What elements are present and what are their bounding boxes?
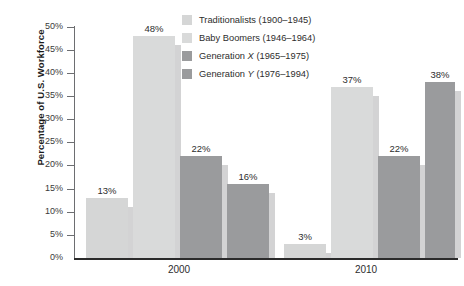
bar-baby-boomers-2000 xyxy=(133,36,175,258)
x-axis-line xyxy=(74,258,458,260)
bar-fill xyxy=(378,156,420,258)
y-axis-tick xyxy=(67,165,74,166)
legend-swatch-icon xyxy=(182,69,192,79)
y-axis-tick-label: 5% xyxy=(30,230,63,239)
y-axis-tick xyxy=(67,142,74,143)
bar-baby-boomers-2010 xyxy=(331,87,373,258)
bar-generation-y-2010 xyxy=(425,82,455,258)
y-axis-tick-label: 40% xyxy=(30,68,63,77)
y-axis-tick xyxy=(67,50,74,51)
legend-label: Baby Boomers (1946–1964) xyxy=(199,33,315,43)
legend-swatch-icon xyxy=(182,15,192,25)
bar-value-label: 22% xyxy=(174,143,228,154)
bar-fill xyxy=(425,82,455,258)
bar-value-label: 38% xyxy=(419,69,461,80)
bar-value-label: 13% xyxy=(80,185,134,196)
bar-fill xyxy=(331,87,373,258)
bar-value-label: 48% xyxy=(127,23,181,34)
legend-item-baby-boomers[interactable]: Baby Boomers (1946–1964) xyxy=(182,30,315,46)
y-axis-tick-label: 30% xyxy=(30,114,63,123)
bar-generation-x-2010 xyxy=(378,156,420,258)
x-axis-group-label-2010: 2010 xyxy=(320,264,412,275)
y-axis-tick xyxy=(67,189,74,190)
y-axis-tick-label: 20% xyxy=(30,160,63,169)
chart-figure: Percentage of U.S. Workforce 50% 45% 40%… xyxy=(0,0,464,286)
bar-generation-x-2000 xyxy=(180,156,222,258)
y-axis-tick xyxy=(67,212,74,213)
y-axis-tick xyxy=(67,27,74,28)
y-axis-tick-label: 0% xyxy=(30,253,63,262)
y-axis-line xyxy=(74,26,75,259)
legend-item-generation-y[interactable]: Generation Y (1976–1994) xyxy=(182,66,315,82)
bar-value-label: 37% xyxy=(325,74,379,85)
bar-value-label: 22% xyxy=(372,143,426,154)
bar-shadow xyxy=(455,91,461,258)
legend-swatch-icon xyxy=(182,51,192,61)
y-axis-tick-label: 25% xyxy=(30,137,63,146)
bar-generation-y-2000 xyxy=(227,184,269,258)
bar-fill xyxy=(86,198,128,258)
y-axis-tick-label: 45% xyxy=(30,45,63,54)
y-axis-tick xyxy=(67,235,74,236)
legend-item-traditionalists[interactable]: Traditionalists (1900–1945) xyxy=(182,12,315,28)
y-axis-tick xyxy=(67,73,74,74)
y-axis-tick-label: 50% xyxy=(30,22,63,31)
y-axis-tick xyxy=(67,96,74,97)
legend-label: Generation Y (1976–1994) xyxy=(199,69,309,79)
y-axis-tick xyxy=(67,119,74,120)
y-axis-tick-label: 15% xyxy=(30,184,63,193)
bar-shadow xyxy=(269,193,275,258)
bar-value-label: 3% xyxy=(278,231,332,242)
bar-fill xyxy=(227,184,269,258)
bar-fill xyxy=(180,156,222,258)
legend-label: Generation X (1965–1975) xyxy=(199,51,309,61)
bar-traditionalists-2010 xyxy=(284,244,326,258)
legend-item-generation-x[interactable]: Generation X (1965–1975) xyxy=(182,48,315,64)
x-axis-group-label-2000: 2000 xyxy=(133,264,225,275)
y-axis-tick-label: 35% xyxy=(30,91,63,100)
bar-fill xyxy=(133,36,175,258)
legend: Traditionalists (1900–1945) Baby Boomers… xyxy=(182,12,315,84)
legend-swatch-icon xyxy=(182,33,192,43)
bar-traditionalists-2000 xyxy=(86,198,128,258)
bar-value-label: 16% xyxy=(221,171,275,182)
bar-fill xyxy=(284,244,326,258)
y-axis-tick-label: 10% xyxy=(30,207,63,216)
legend-label: Traditionalists (1900–1945) xyxy=(199,15,311,25)
